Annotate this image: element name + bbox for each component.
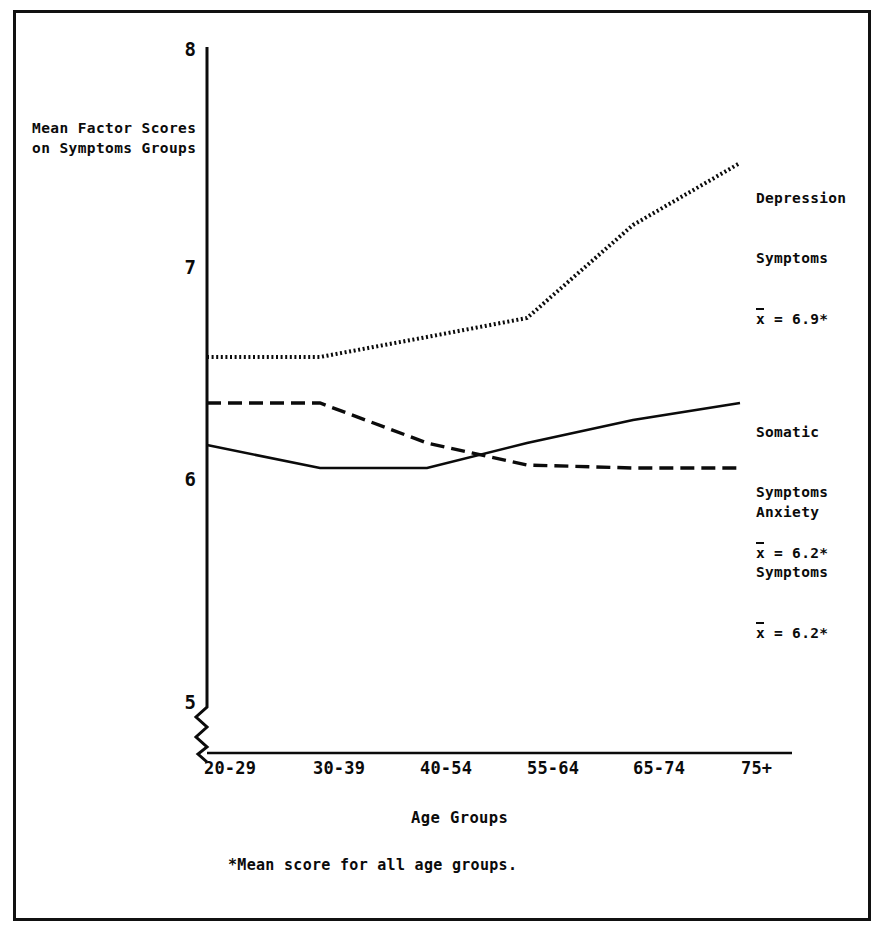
y-axis-tick-6: 6: [162, 466, 196, 492]
x-axis-tick-65-74: 65-74: [633, 757, 685, 780]
y-axis-tick-7: 7: [162, 254, 196, 280]
series-label-anxiety: Anxiety Symptoms x = 6.2*: [756, 462, 828, 683]
x-axis-tick-75-plus: 75+: [741, 757, 772, 780]
y-axis-title: Mean Factor Scores on Symptoms Groups: [32, 118, 196, 158]
series-label-somatic-line1: Somatic: [756, 422, 828, 442]
series-label-anxiety-line2: Symptoms: [756, 562, 828, 582]
figure-footnote: *Mean score for all age groups.: [228, 855, 517, 876]
figure-container: 8 7 6 5 Mean Factor Scores on Symptoms G…: [0, 0, 885, 946]
series-label-depression-line1: Depression: [756, 188, 846, 208]
series-label-depression-line2: Symptoms: [756, 248, 846, 268]
x-axis-tick-30-39: 30-39: [313, 757, 365, 780]
x-bar-symbol: x: [756, 309, 765, 329]
x-axis-tick-40-54: 40-54: [420, 757, 472, 780]
series-label-anxiety-line1: Anxiety: [756, 502, 828, 522]
series-mean-anxiety: x = 6.2*: [756, 623, 828, 643]
series-label-depression: Depression Symptoms x = 6.9*: [756, 148, 846, 369]
y-axis-tick-5: 5: [162, 689, 196, 715]
series-mean-depression-value: = 6.9*: [765, 311, 828, 327]
x-bar-symbol: x: [756, 623, 765, 643]
series-mean-depression: x = 6.9*: [756, 309, 846, 329]
series-mean-anxiety-value: = 6.2*: [765, 625, 828, 641]
x-axis-title: Age Groups: [411, 808, 508, 829]
x-axis-tick-55-64: 55-64: [527, 757, 579, 780]
x-axis-tick-20-29: 20-29: [204, 757, 256, 780]
y-axis-tick-8: 8: [162, 36, 196, 62]
